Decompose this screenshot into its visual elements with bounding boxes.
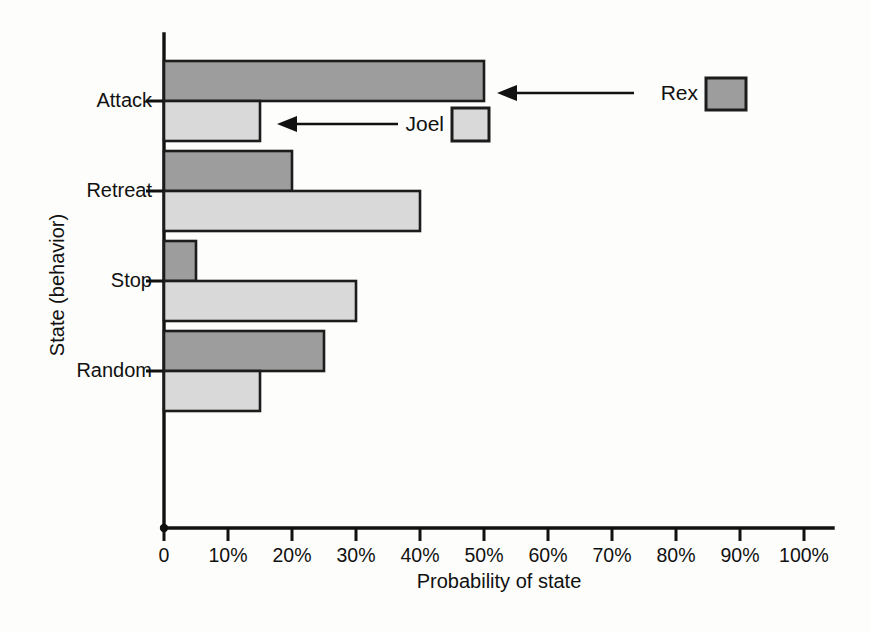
x-tick-label-9: 90% — [720, 544, 759, 566]
bar-joel-retreat — [164, 191, 420, 231]
x-tick-label-1: 10% — [208, 544, 247, 566]
x-tick-label-10: 100% — [779, 544, 829, 566]
x-tick-labels: 010%20%30%40%50%60%70%80%90%100% — [159, 544, 829, 566]
x-tick-label-6: 60% — [528, 544, 567, 566]
x-tick-label-3: 30% — [336, 544, 375, 566]
annotation-rex: Rex — [497, 78, 746, 110]
joel-arrow-head — [277, 116, 297, 132]
category-label-stop: Stop — [111, 269, 152, 291]
category-label-random: Random — [76, 359, 152, 381]
bar-rex-attack — [164, 61, 484, 101]
x-tick-label-0: 0 — [159, 544, 170, 566]
x-axis-title: Probability of state — [417, 570, 582, 592]
x-tick-label-5: 50% — [464, 544, 503, 566]
joel-annotation-label: Joel — [405, 112, 444, 135]
bar-joel-random — [164, 371, 260, 411]
joel-legend-swatch — [452, 108, 489, 141]
x-tick-label-2: 20% — [272, 544, 311, 566]
bar-joel-attack — [164, 101, 260, 141]
annotation-joel: Joel — [277, 108, 489, 141]
category-labels: AttackRetreatStopRandom — [76, 89, 153, 381]
rex-legend-swatch — [706, 78, 746, 110]
x-tick-label-8: 80% — [656, 544, 695, 566]
bar-rex-random — [164, 331, 324, 371]
bar-chart-canvas: AttackRetreatStopRandom 010%20%30%40%50%… — [0, 0, 870, 632]
y-axis-title: State (behavior) — [46, 214, 68, 356]
rex-arrow-head — [497, 85, 517, 101]
bar-joel-stop — [164, 281, 356, 321]
rex-annotation-label: Rex — [661, 81, 699, 104]
bar-rex-retreat — [164, 151, 292, 191]
x-tick-label-7: 70% — [592, 544, 631, 566]
category-label-retreat: Retreat — [86, 179, 152, 201]
x-tick-label-4: 40% — [400, 544, 439, 566]
bar-rex-stop — [164, 241, 196, 281]
chart-figure: AttackRetreatStopRandom 010%20%30%40%50%… — [0, 0, 870, 632]
category-label-attack: Attack — [96, 89, 153, 111]
